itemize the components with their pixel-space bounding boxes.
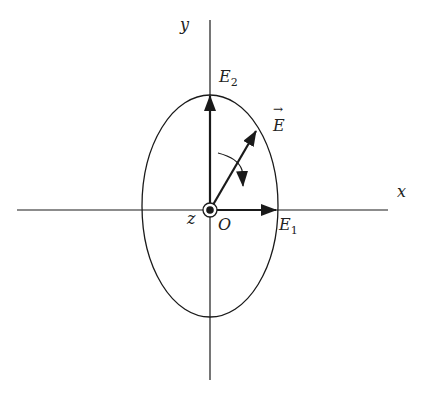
e-vector-label: E (273, 118, 285, 134)
e1-label-sub: 1 (291, 224, 298, 237)
e2-label-base: E (219, 67, 231, 86)
e1-label: E1 (279, 217, 298, 236)
origin-label: O (218, 217, 231, 233)
x-axis-label: x (397, 184, 406, 200)
e2-label-sub: 2 (231, 76, 238, 89)
y-axis-label: y (180, 17, 189, 33)
e1-label-base: E (279, 215, 291, 234)
vector-arrow-icon: → (273, 103, 283, 115)
z-axis-dot (206, 206, 214, 214)
e2-label: E2 (219, 69, 238, 88)
z-axis-label: z (187, 211, 195, 227)
e-vector (210, 131, 256, 210)
diagram-graphics (0, 0, 421, 395)
polarization-diagram: y x z O E2 E1 E → (0, 0, 421, 395)
